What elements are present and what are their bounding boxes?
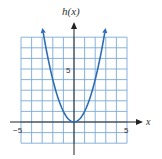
y-axis-label: h(x) [62,5,80,18]
x-tick-min: −5 [13,126,23,135]
axes [10,22,143,155]
x-axis-label: x [145,116,151,127]
curve-right-arrow-icon [102,28,107,33]
y-tick-5: 5 [66,66,71,75]
curve-left-arrow-icon [41,28,46,33]
y-axis-arrow-icon [71,22,77,29]
function-graph: h(x) x −5 5 5 [0,0,162,159]
x-tick-max: 5 [124,126,129,135]
x-axis-arrow-icon [136,119,143,125]
